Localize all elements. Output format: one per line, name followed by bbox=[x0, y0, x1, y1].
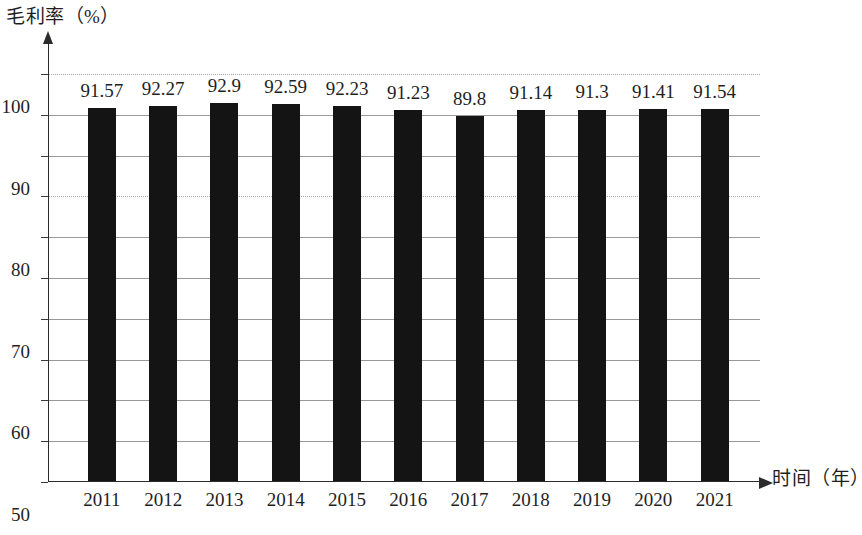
bar bbox=[517, 110, 545, 482]
bar-value-label: 92.27 bbox=[142, 79, 185, 98]
y-axis-tick-label: 50 bbox=[11, 505, 30, 524]
y-axis-tick-label: 100 bbox=[2, 97, 31, 116]
x-axis-tick-label: 2012 bbox=[144, 490, 182, 509]
y-axis-tick-label: 90 bbox=[11, 178, 30, 197]
bar-value-label: 91.14 bbox=[509, 83, 552, 102]
y-axis-arrow-icon bbox=[43, 31, 53, 44]
y-axis-tick: 40 bbox=[41, 319, 48, 320]
bar-group: 92.592014 bbox=[255, 43, 316, 482]
bar-value-label: 91.41 bbox=[632, 82, 675, 101]
bar-value-label: 91.23 bbox=[387, 83, 430, 102]
x-axis-tick-label: 2021 bbox=[696, 490, 734, 509]
bar-group: 91.572011 bbox=[71, 43, 132, 482]
gross-margin-bar-chart: 毛利率（%） 时间（年） 0102030405060708090100 91.5… bbox=[0, 0, 862, 535]
bar bbox=[456, 116, 484, 482]
bar-value-label: 92.59 bbox=[264, 77, 307, 96]
x-axis-tick-label: 2017 bbox=[451, 490, 489, 509]
y-axis-tick: 60 bbox=[41, 237, 48, 238]
x-axis-tick-label: 2020 bbox=[634, 490, 672, 509]
y-axis-tick-label: 70 bbox=[11, 341, 30, 360]
x-axis-tick-label: 2013 bbox=[205, 490, 243, 509]
bar-group: 91.232016 bbox=[378, 43, 439, 482]
x-axis-tick-label: 2014 bbox=[267, 490, 305, 509]
bar-group: 89.82017 bbox=[439, 43, 500, 482]
y-axis-tick: 10 bbox=[41, 441, 48, 442]
x-axis-tick-label: 2018 bbox=[512, 490, 550, 509]
x-axis-line bbox=[48, 481, 760, 482]
bar bbox=[88, 108, 116, 482]
y-axis-tick: 0 bbox=[41, 482, 48, 483]
bar-group: 91.32019 bbox=[561, 43, 622, 482]
bar bbox=[701, 109, 729, 482]
y-axis-tick-label: 80 bbox=[11, 260, 30, 279]
bar bbox=[210, 103, 238, 482]
bar-value-label: 92.23 bbox=[326, 79, 369, 98]
y-axis-tick: 20 bbox=[41, 400, 48, 401]
x-axis-arrow-icon bbox=[759, 477, 773, 489]
x-axis-title: 时间（年） bbox=[772, 466, 862, 492]
x-axis-tick-label: 2016 bbox=[389, 490, 427, 509]
bar bbox=[149, 106, 177, 482]
bar-group: 92.92013 bbox=[194, 43, 255, 482]
bar-group: 92.232015 bbox=[316, 43, 377, 482]
bar bbox=[578, 110, 606, 483]
x-axis-tick-label: 2015 bbox=[328, 490, 366, 509]
bar-value-label: 91.54 bbox=[693, 82, 736, 101]
bar bbox=[333, 106, 361, 482]
bar-group: 92.272012 bbox=[133, 43, 194, 482]
bar-value-label: 89.8 bbox=[453, 89, 486, 108]
y-axis-tick: 50 bbox=[41, 278, 48, 279]
bar-value-label: 92.9 bbox=[208, 76, 241, 95]
bar-group: 91.542021 bbox=[684, 43, 745, 482]
x-axis-tick-label: 2011 bbox=[83, 490, 120, 509]
bar bbox=[272, 104, 300, 482]
y-axis-tick: 80 bbox=[41, 156, 48, 157]
bar-value-label: 91.3 bbox=[575, 82, 608, 101]
bar-group: 91.412020 bbox=[623, 43, 684, 482]
y-axis-tick: 30 bbox=[41, 360, 48, 361]
y-axis-tick: 90 bbox=[41, 115, 48, 116]
y-axis-tick-label: 60 bbox=[11, 423, 30, 442]
y-axis-title: 毛利率（%） bbox=[6, 4, 120, 30]
x-axis-tick-label: 2019 bbox=[573, 490, 611, 509]
plot-area: 0102030405060708090100 91.57201192.27201… bbox=[48, 43, 762, 482]
bar-value-label: 91.57 bbox=[81, 81, 124, 100]
y-axis-tick: 70 bbox=[41, 196, 48, 197]
y-axis-line bbox=[48, 43, 49, 482]
y-axis-tick: 100 bbox=[41, 74, 48, 75]
bar bbox=[394, 110, 422, 482]
bar-group: 91.142018 bbox=[500, 43, 561, 482]
bar bbox=[639, 109, 667, 482]
